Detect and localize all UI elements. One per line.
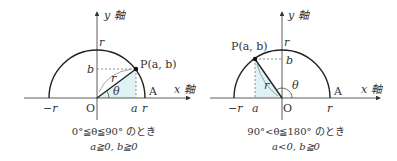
unit-circle-figure: y 軸 r b P(a, b) r θ A x 軸 −r O a r 0°≦θ≦… (0, 0, 397, 161)
origin-label: O (283, 102, 292, 115)
theta-label: θ (292, 79, 299, 92)
radius-label: r (264, 79, 270, 92)
diagram-first-quadrant: y 軸 r b P(a, b) r θ A x 軸 −r O a r 0°≦θ≦… (24, 9, 196, 152)
neg-r-label: −r (43, 102, 58, 115)
A-label: A (333, 85, 343, 98)
top-r-label: r (99, 36, 105, 49)
a-label: a (131, 102, 138, 115)
y-axis-label: y 軸 (103, 9, 126, 22)
caption-line2: a≧0, b≧0 (90, 141, 138, 152)
A-label: A (148, 85, 158, 98)
radius-label: r (111, 72, 117, 85)
y-axis-label: y 軸 (287, 9, 310, 22)
neg-r-label: −r (228, 102, 243, 115)
caption-line1: 90°<θ≦180° のとき (247, 126, 344, 137)
pos-r-label: r (142, 102, 148, 115)
a-label: a (252, 102, 259, 115)
theta-label: θ (113, 85, 120, 98)
x-axis-label: x 軸 (361, 83, 383, 96)
b-label: b (286, 54, 293, 67)
caption-line1: 0°≦θ≦90° のとき (72, 126, 156, 137)
point-P (253, 57, 257, 61)
b-label: b (87, 63, 94, 76)
x-axis-label: x 軸 (174, 83, 196, 96)
point-P (134, 67, 138, 71)
diagram-second-quadrant: y 軸 r b P(a, b) r θ A x 軸 −r a O r 90°<θ… (210, 9, 383, 152)
point-label: P(a, b) (231, 40, 268, 53)
top-r-label: r (284, 36, 290, 49)
origin-label: O (86, 102, 95, 115)
caption-line2: a<0, b≧0 (272, 141, 320, 152)
pos-r-label: r (327, 102, 333, 115)
point-label: P(a, b) (140, 58, 177, 71)
